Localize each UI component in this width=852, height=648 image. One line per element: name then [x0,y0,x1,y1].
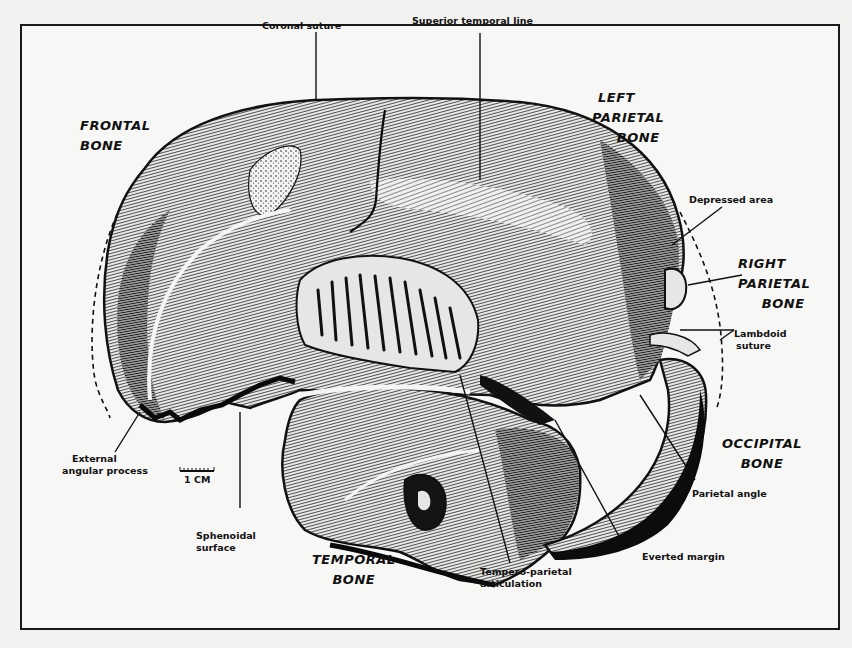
annotation-sphenoidal-surface: Sphenoidal surface [196,530,256,554]
label-line: suture [736,340,787,352]
annotation-superior-temporal-line: Superior temporal line [412,15,533,27]
label-line: PARIETAL [738,274,810,294]
annotation-lambdoid-suture: Lambdoid suture [734,328,787,352]
label-line: Tempero-parietal [480,566,572,578]
label-line: BONE [722,454,802,474]
annotation-external-angular-process: External angular process [62,453,148,477]
label-line: BONE [612,128,664,148]
label-line: BONE [80,136,151,156]
label-frontal-bone: FRONTAL BONE [80,116,151,156]
label-occipital-bone: OCCIPITAL BONE [722,434,802,474]
scale-bar [180,467,214,471]
label-line: External [72,453,148,465]
annotation-tempero-parietal-articulation: Tempero-parietal articulation [480,566,572,590]
annotation-parietal-angle: Parietal angle [692,488,767,500]
label-line: angular process [62,465,148,477]
label-line: surface [196,542,256,554]
label-right-parietal-bone: RIGHT PARIETAL BONE [738,254,810,314]
label-line: BONE [312,570,396,590]
label-left-parietal-bone: LEFT PARIETAL BONE [592,88,664,148]
label-line: BONE [756,294,810,314]
label-line: TEMPORAL [312,550,396,570]
label-line: Sphenoidal [196,530,256,542]
label-line: OCCIPITAL [722,434,802,454]
label-line: PARIETAL [592,108,664,128]
label-line: articulation [480,578,572,590]
annotation-everted-margin: Everted margin [642,551,725,563]
label-line: LEFT [598,88,664,108]
label-line: RIGHT [738,254,810,274]
label-temporal-bone: TEMPORAL BONE [312,550,396,590]
annotation-depressed-area: Depressed area [689,194,773,206]
annotation-coronal-suture: Coronal suture [262,20,341,32]
scale-bar-label: 1 CM [184,474,210,486]
label-line: Lambdoid [734,328,787,340]
label-line: FRONTAL [80,116,151,136]
